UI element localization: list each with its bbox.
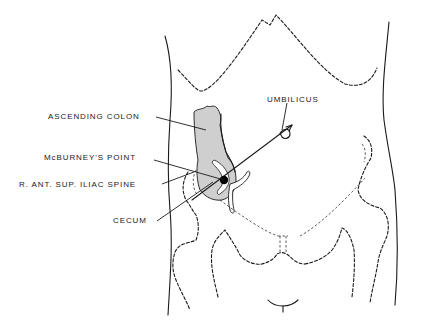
label-ascending-colon: ASCENDING COLON: [48, 112, 140, 122]
left-iliac-inner: [362, 144, 365, 162]
torso-right-outline: [383, 22, 397, 305]
leader-iliac-spine: [162, 172, 194, 184]
right-iliac-crest: [173, 172, 198, 310]
label-iliac-spine: R. ANT. SUP. ILIAC SPINE: [19, 180, 136, 190]
label-umbilicus: UMBILICUS: [267, 95, 319, 105]
torso-left-outline: [165, 36, 171, 315]
genital-outline: [268, 300, 298, 306]
right-obturator-outline: [211, 230, 305, 297]
leader-umbilicus: [282, 103, 287, 130]
left-obturator-outline: [305, 228, 354, 297]
leader-cecum: [157, 182, 213, 221]
rib-cage-margin: [178, 15, 377, 91]
label-cecum: CECUM: [113, 216, 147, 226]
label-mcburneys-point: McBURNEY'S POINT: [44, 153, 136, 163]
left-iliac-crest: [358, 136, 388, 303]
arrowhead: [286, 125, 292, 131]
body-outline-drawing: [0, 0, 422, 333]
inguinal-ligament-left: [300, 178, 365, 236]
anatomy-diagram: ASCENDING COLON McBURNEY'S POINT R. ANT.…: [0, 0, 422, 333]
